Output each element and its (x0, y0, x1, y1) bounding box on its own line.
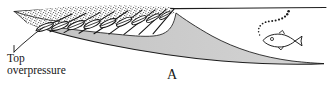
geological-cross-section-figure: Top overpressure A (0, 0, 330, 95)
annotation-leader-line (14, 27, 44, 52)
top-overpressure-annotation: Top overpressure (7, 53, 66, 77)
cross-section-drawing (0, 0, 330, 95)
fish-icon (263, 30, 302, 50)
panel-label: A (167, 68, 177, 83)
gas-bubble-trail (258, 10, 290, 36)
annotation-line-2: overpressure (7, 65, 66, 77)
